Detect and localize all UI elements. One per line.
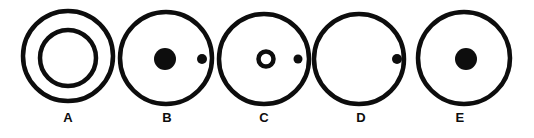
panel-label-e: E — [456, 110, 465, 125]
panel-label-d: D — [356, 110, 366, 125]
side-dot-b — [197, 54, 207, 64]
center-dot-b — [154, 48, 176, 70]
figure-container: ABCDE — [0, 0, 534, 138]
panel-label-a: A — [63, 110, 73, 125]
side-dot-c — [294, 55, 303, 64]
circle-series-diagram: ABCDE — [0, 0, 534, 138]
panel-label-c: C — [259, 110, 269, 125]
side-dot-d — [392, 54, 402, 64]
center-dot-e — [455, 48, 477, 70]
panel-label-b: B — [162, 110, 172, 125]
